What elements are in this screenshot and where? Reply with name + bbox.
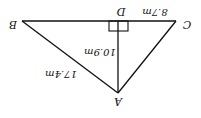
measure-AD: 10.9m <box>84 47 116 58</box>
point-label-B: B <box>9 18 18 31</box>
point-label-D: D <box>116 5 126 18</box>
triangle-diagram: B C D A 8.7m 10.9m 17.4m <box>0 0 201 118</box>
measure-DC: 8.7m <box>142 7 167 18</box>
segment-AC <box>118 21 176 93</box>
point-label-A: A <box>114 95 123 108</box>
measure-AB: 17.4m <box>45 69 77 80</box>
point-label-C: C <box>182 18 191 31</box>
